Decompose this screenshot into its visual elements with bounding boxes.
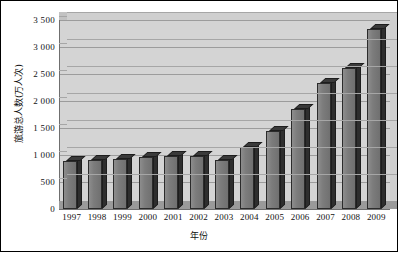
bar-top-face	[91, 155, 111, 160]
bar[interactable]	[291, 109, 305, 209]
gridline-wall	[59, 43, 67, 44]
bar[interactable]	[164, 156, 178, 209]
chart-frame: 3 5003 0002 5002 0001 5001 0005000 旅游总人数…	[0, 0, 398, 252]
bar-top-face	[294, 104, 314, 109]
gridline-wall	[59, 16, 67, 17]
gridline-back	[67, 93, 397, 94]
bar-side-face	[178, 152, 183, 209]
x-axis-tick: 2009	[361, 212, 391, 222]
bar-top-face	[370, 24, 390, 29]
gridline-wall	[59, 70, 67, 71]
bar-side-face	[102, 156, 107, 209]
bar-front-face	[88, 160, 102, 209]
bar-top-face	[116, 154, 136, 159]
bar-front-face	[190, 156, 204, 209]
bar-side-face	[127, 154, 132, 209]
bar-side-face	[77, 157, 82, 209]
gridline-back	[67, 12, 397, 13]
y-axis-tick-labels: 3 5003 0002 5002 0001 5001 0005000	[1, 1, 55, 253]
bar-front-face	[240, 147, 254, 209]
bar-front-face	[342, 68, 356, 209]
gridline-back	[67, 120, 397, 121]
bar-front-face	[215, 160, 229, 209]
gridline-back	[67, 174, 397, 175]
bar[interactable]	[240, 147, 254, 209]
y-axis-tick: 3 500	[3, 16, 55, 25]
bar[interactable]	[139, 157, 153, 209]
bar-front-face	[164, 156, 178, 209]
bar[interactable]	[190, 156, 204, 209]
bar-top-face	[142, 152, 162, 157]
bar-front-face	[113, 159, 127, 209]
y-axis-tick: 0	[3, 205, 55, 214]
gridline-wall	[59, 178, 67, 179]
bar-front-face	[139, 157, 153, 209]
y-axis-tick: 500	[3, 178, 55, 187]
gridline-back	[67, 147, 397, 148]
gridline-wall	[59, 97, 67, 98]
bar-series	[59, 20, 389, 209]
gridline-back	[67, 39, 397, 40]
bar-side-face	[153, 152, 158, 209]
bar[interactable]	[88, 160, 102, 209]
bar-front-face	[266, 131, 280, 209]
y-axis-title: 旅游总人数(万人次)	[12, 39, 25, 169]
bar-side-face	[356, 63, 361, 209]
bar[interactable]	[266, 131, 280, 209]
bar-top-face	[320, 78, 340, 83]
bar-top-face	[167, 151, 187, 156]
bar-side-face	[381, 25, 386, 209]
bar-side-face	[204, 152, 209, 209]
bar-top-face	[269, 126, 289, 131]
bar-side-face	[280, 126, 285, 209]
bar[interactable]	[113, 159, 127, 209]
bar-side-face	[331, 79, 336, 209]
bar-side-face	[254, 142, 259, 209]
gridline-wall	[59, 151, 67, 152]
gridline-back	[67, 66, 397, 67]
x-axis-title: 年份	[1, 229, 397, 242]
gridline-wall	[59, 124, 67, 125]
bar[interactable]	[342, 68, 356, 209]
bar-front-face	[291, 109, 305, 209]
bar[interactable]	[215, 160, 229, 209]
bar-side-face	[229, 156, 234, 209]
x-axis-tick-labels: 1997199819992000200120022003200420052006…	[59, 212, 397, 226]
bar-top-face	[193, 151, 213, 156]
bar-front-face	[63, 161, 77, 209]
bar-top-face	[218, 155, 238, 160]
bar[interactable]	[63, 161, 77, 209]
bar-top-face	[66, 156, 86, 161]
